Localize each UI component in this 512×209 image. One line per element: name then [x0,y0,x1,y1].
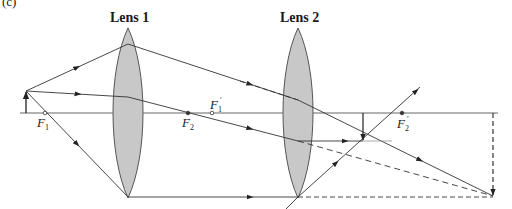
focal-F2p-letter: F [397,116,405,131]
ray-3-arrow [26,91,77,144]
focal-F1p-sub: 1 [218,105,222,114]
panel-label: (c) [2,0,16,10]
focal-F1p-prime: ′ [220,96,222,105]
focal-F1-letter: F [37,115,45,130]
lens-2-shape [283,28,313,198]
ray-1-refracted-arrow [128,44,250,84]
virtual-ext-2 [285,197,298,209]
ray-diagram-canvas [0,0,512,209]
ray-3-top-arrow [400,91,416,105]
focal-label-F1-prime: F1′ [210,96,222,114]
ray-1-arrow [26,68,77,92]
focal-F1-sub: 1 [45,123,49,132]
virtual-ext-1 [298,141,493,196]
focal-F1p-letter: F [210,97,218,112]
focal-F2-letter: F [182,115,190,130]
focal-label-F2: F2 [182,115,194,132]
focal-label-F2-prime: F2′ [397,115,409,133]
ray-2-arrow [26,91,78,94]
focal-F2-sub: 2 [190,123,194,132]
focal-label-F1: F1 [37,115,49,132]
lens-1-shape [113,28,143,198]
two-lens-ray-diagram: (c) Lens 1 Lens 2 F1 F2 F1′ F2′ [0,0,512,209]
lens-2-title: Lens 2 [280,10,319,26]
focal-F2p-sub: 2 [405,124,409,133]
lens-1-title: Lens 1 [110,10,149,26]
focal-F2p-prime: ′ [407,115,409,124]
